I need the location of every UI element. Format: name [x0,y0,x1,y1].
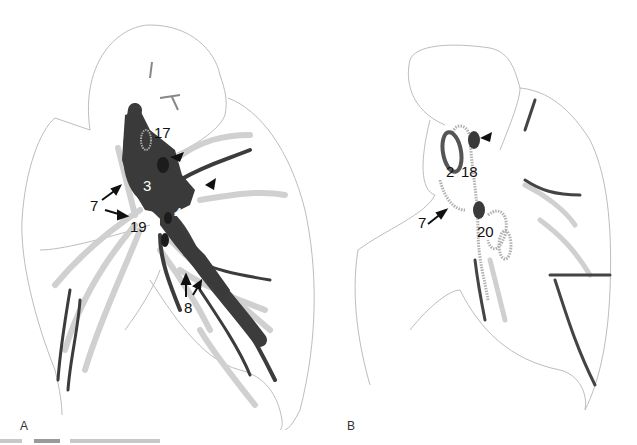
label-7-a: 7 [90,198,98,213]
label-7-b: 7 [418,215,426,230]
figure-caption-cutoff [0,436,637,445]
label-17: 17 [154,125,171,140]
right-lung-outline [22,118,90,415]
label-20: 20 [477,224,494,239]
label-18: 18 [461,164,478,179]
label-3: 3 [143,178,151,193]
label-2: 2 [446,164,454,179]
label-8: 8 [184,300,192,315]
upper-lobe-outline-b [408,45,520,125]
label-19: 19 [130,219,147,234]
panel-label-a: A [20,419,28,433]
arrowhead-icon [205,178,216,190]
lung-anatomy-figure: 17 3 4 7 19 8 2 18 7 20 A B [0,0,637,445]
arrowhead-icon [480,132,492,142]
left-lung-outline [228,98,314,430]
panel-label-b: B [347,419,355,433]
left-lung-outline-b [355,120,435,385]
label-4: 4 [174,205,182,220]
panel-a-illustration [0,0,320,430]
right-lung-outline-b [520,88,611,410]
